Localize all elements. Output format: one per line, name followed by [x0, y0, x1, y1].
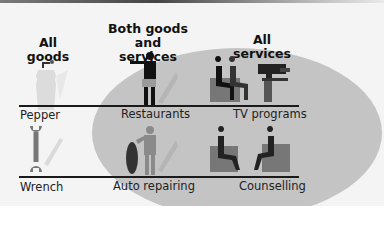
top-border [0, 0, 391, 3]
heading-both-line1: Both goods [108, 22, 188, 36]
tv-studio-icon [200, 58, 300, 104]
row-line-2 [19, 176, 299, 178]
wrench-icon [28, 124, 68, 176]
label-tv-programs: TV programs [233, 107, 307, 121]
label-pepper: Pepper [20, 108, 60, 122]
label-restaurants: Restaurants [121, 107, 190, 121]
waiter-icon [128, 52, 178, 108]
label-auto-repairing: Auto repairing [113, 179, 195, 193]
pepper-grinder-icon [28, 58, 68, 110]
counselling-icon [200, 130, 300, 176]
goods-services-diagram: All goods Both goods and services All se… [0, 0, 391, 243]
label-counselling: Counselling [239, 179, 306, 193]
right-margin [384, 0, 391, 243]
mechanic-tire-icon [124, 126, 184, 176]
bottom-margin [0, 206, 391, 243]
label-wrench: Wrench [20, 180, 63, 194]
